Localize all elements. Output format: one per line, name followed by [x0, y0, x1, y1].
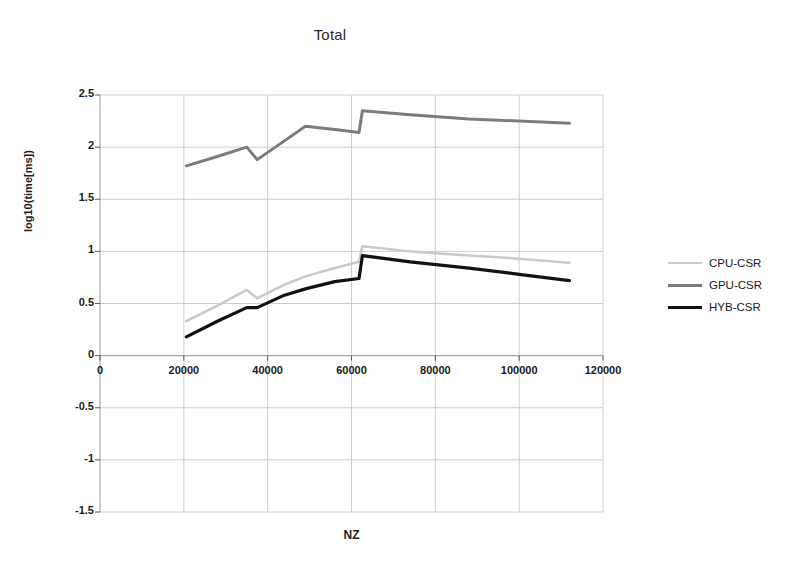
legend-label: CPU-CSR: [709, 257, 761, 269]
legend-label: HYB-CSR: [709, 301, 761, 313]
x-tick-label: 120000: [585, 364, 622, 376]
legend-swatch: [668, 284, 702, 287]
chart-container: Total log10(time[ms]) NZ -1.5-1-0.500.51…: [0, 0, 791, 575]
legend-swatch: [668, 262, 702, 264]
legend-item: HYB-CSR: [668, 296, 762, 318]
legend-label: GPU-CSR: [709, 279, 762, 291]
x-tick-label: 0: [97, 364, 103, 376]
x-tick-label: 100000: [501, 364, 538, 376]
legend-item: GPU-CSR: [668, 274, 762, 296]
series-line-hyb-csr: [186, 256, 569, 337]
x-tick-label: 60000: [336, 364, 367, 376]
x-tick-label: 40000: [252, 364, 283, 376]
x-tick-label: 20000: [169, 364, 200, 376]
legend-item: CPU-CSR: [668, 252, 762, 274]
legend-swatch: [668, 306, 702, 309]
chart-legend: CPU-CSRGPU-CSRHYB-CSR: [668, 252, 762, 318]
series-line-gpu-csr: [186, 111, 569, 166]
x-tick-label: 80000: [420, 364, 451, 376]
